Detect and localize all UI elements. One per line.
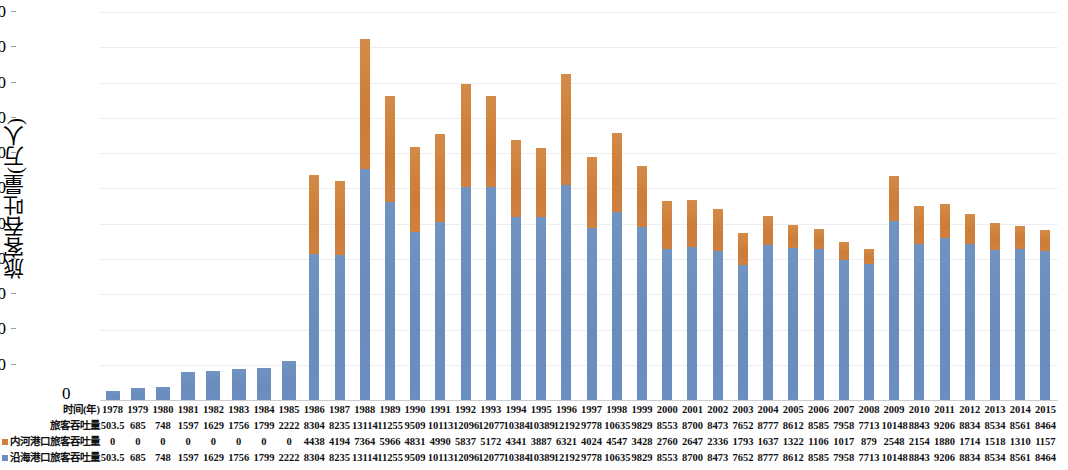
bar-segment-inland — [587, 157, 597, 228]
table-cell-inland: 2760 — [655, 434, 680, 449]
bar-2005[interactable] — [788, 225, 798, 400]
table-row: 旅客吞吐量 503.568574815971629175617992222830… — [0, 418, 1068, 433]
bar-1996[interactable] — [561, 74, 571, 401]
bar-2013[interactable] — [990, 223, 1000, 400]
bar-2006[interactable] — [814, 229, 824, 400]
bar-segment-coastal — [282, 361, 296, 400]
bar-1982[interactable] — [206, 371, 220, 400]
bar-1998[interactable] — [612, 133, 622, 400]
table-cell-year: 2006 — [806, 402, 831, 417]
bar-segment-coastal — [181, 372, 195, 400]
table-cell-total: 7713 — [856, 418, 881, 433]
bar-1994[interactable] — [511, 140, 521, 400]
table-cell-total: 1597 — [176, 418, 201, 433]
bar-2012[interactable] — [965, 214, 975, 400]
bar-1999[interactable] — [637, 166, 647, 400]
table-cell-year: 1987 — [327, 402, 352, 417]
bar-segment-inland — [965, 214, 975, 244]
bar-1980[interactable] — [156, 387, 170, 400]
table-cell-coastal: 10389 — [529, 450, 554, 465]
y-axis-tick-mark — [11, 82, 16, 83]
y-axis-tick-label: 22000 — [0, 3, 6, 20]
table-cell-total: 12077 — [478, 418, 503, 433]
bar-2004[interactable] — [763, 216, 773, 400]
bar-2007[interactable] — [839, 242, 849, 400]
table-cell-total: 8777 — [756, 418, 781, 433]
bar-segment-coastal — [536, 217, 546, 400]
bar-1981[interactable] — [181, 372, 195, 400]
bar-2000[interactable] — [662, 201, 672, 401]
y-axis-tick-label: 8000 — [0, 250, 6, 267]
bar-segment-inland — [385, 96, 395, 201]
table-cell-year: 1988 — [352, 402, 377, 417]
y-axis-tick-label: 14000 — [0, 144, 6, 161]
bar-2010[interactable] — [914, 206, 924, 400]
y-axis-tick-mark — [11, 293, 16, 294]
bar-1984[interactable] — [257, 368, 271, 400]
table-cell-inland: 4438 — [302, 434, 327, 449]
table-cell-inland: 1017 — [831, 434, 856, 449]
bar-1979[interactable] — [131, 388, 145, 400]
table-cell-coastal: 8834 — [957, 450, 982, 465]
bar-1995[interactable] — [536, 148, 546, 400]
table-cell-total: 12096 — [453, 418, 478, 433]
table-cell-year: 1997 — [579, 402, 604, 417]
bar-2002[interactable] — [713, 209, 723, 400]
bar-1997[interactable] — [587, 157, 597, 400]
bar-1993[interactable] — [486, 96, 496, 400]
table-cell-year: 1984 — [251, 402, 276, 417]
y-axis-tick-mark — [11, 152, 16, 153]
bar-1987[interactable] — [335, 181, 345, 400]
table-row: 内河港口旅客吞吐量 000000004438419473645966483149… — [0, 434, 1068, 449]
bar-2003[interactable] — [738, 233, 748, 400]
table-cell-year: 1992 — [453, 402, 478, 417]
table-cell-inland: 0 — [251, 434, 276, 449]
table-cell-coastal: 10635 — [604, 450, 629, 465]
table-cell-total: 9509 — [403, 418, 428, 433]
table-cell-year: 1985 — [277, 402, 302, 417]
bar-segment-inland — [839, 242, 849, 260]
table-cell-coastal: 1597 — [176, 450, 201, 465]
bar-1978[interactable] — [106, 391, 120, 400]
bar-segment-coastal — [889, 221, 899, 400]
table-cell-year: 2000 — [655, 402, 680, 417]
table-cell-inland: 879 — [856, 434, 881, 449]
table-cell-year: 2004 — [756, 402, 781, 417]
table-cell-total: 10635 — [604, 418, 629, 433]
bar-1990[interactable] — [410, 147, 420, 400]
bar-1991[interactable] — [435, 134, 445, 400]
row-cells-total: 503.568574815971629175617992222830482351… — [100, 418, 1058, 433]
table-cell-inland: 1880 — [932, 434, 957, 449]
row-cells-inland: 0000000044384194736459664831499058375172… — [100, 434, 1058, 449]
bar-2015[interactable] — [1040, 230, 1050, 400]
bar-1983[interactable] — [232, 369, 246, 400]
table-cell-year: 2012 — [957, 402, 982, 417]
bar-1989[interactable] — [385, 96, 395, 400]
table-cell-total: 7958 — [831, 418, 856, 433]
bar-1985[interactable] — [282, 361, 296, 400]
bar-2014[interactable] — [1015, 226, 1025, 400]
bar-2001[interactable] — [687, 200, 697, 400]
bar-2011[interactable] — [940, 205, 950, 401]
bar-1988[interactable] — [360, 39, 370, 400]
bar-1992[interactable] — [461, 84, 471, 400]
bar-2008[interactable] — [864, 249, 874, 401]
table-cell-total: 1756 — [226, 418, 251, 433]
row-label-years: 时间(年) — [0, 404, 102, 415]
bar-2009[interactable] — [889, 176, 899, 400]
table-cell-year: 1980 — [150, 402, 175, 417]
row-label-coastal-text: 沿海港口旅客吞吐量 — [10, 452, 100, 463]
bar-1986[interactable] — [309, 175, 319, 400]
bar-segment-coastal — [257, 368, 271, 400]
table-cell-year: 1986 — [302, 402, 327, 417]
y-axis-tick-label: 10000 — [0, 215, 6, 232]
table-cell-inland: 2647 — [680, 434, 705, 449]
table-cell-inland: 0 — [201, 434, 226, 449]
table-cell-inland: 4547 — [604, 434, 629, 449]
bar-segment-coastal — [713, 251, 723, 400]
table-cell-year: 2003 — [730, 402, 755, 417]
y-axis-tick-mark — [11, 46, 16, 47]
table-cell-year: 2010 — [907, 402, 932, 417]
table-cell-coastal: 13114 — [352, 450, 377, 465]
table-cell-year: 1999 — [629, 402, 654, 417]
